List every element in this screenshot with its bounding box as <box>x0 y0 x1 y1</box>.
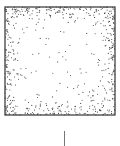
vertical-stem-line <box>64 131 65 146</box>
square-border <box>5 7 115 115</box>
stippled-square-figure <box>0 0 120 146</box>
